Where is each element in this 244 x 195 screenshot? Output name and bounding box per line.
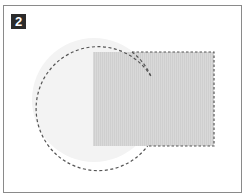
rectangle-shape — [93, 52, 214, 146]
overlap-diagram — [0, 0, 244, 195]
